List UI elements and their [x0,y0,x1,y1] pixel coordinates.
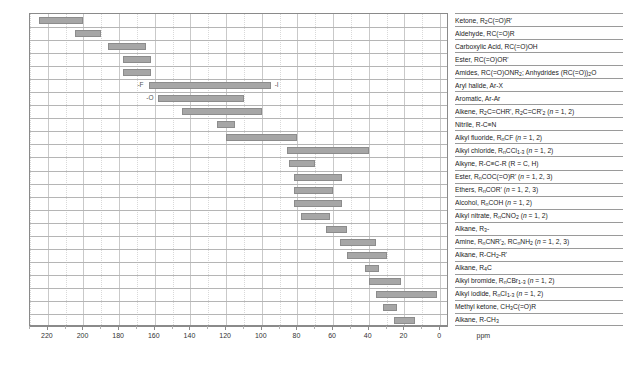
range-row [30,301,447,314]
range-row [30,14,447,27]
row-separator [30,92,447,93]
axis-tick-label: 200 [77,332,89,339]
shift-range-bar[interactable] [217,121,235,128]
range-row [30,171,447,184]
row-separator [30,210,447,211]
shift-range-bar[interactable] [182,108,262,115]
shift-range-bar[interactable] [123,69,152,76]
axis-tick-label: 20 [400,332,408,339]
range-row [30,275,447,288]
shift-range-bar[interactable] [294,187,333,194]
range-row [30,236,447,249]
x-axis [29,326,448,327]
row-separator [30,27,447,28]
nmr-shift-chart: -F-I-O Ketone, R2C(=O)R'Aldehyde, RC(=O)… [0,0,624,366]
functional-group-label: Alkyl fluoride, RnCF (n = 1, 2) [455,130,623,143]
label-column: Ketone, R2C(=O)R'Aldehyde, RC(=O)RCarbox… [455,13,623,326]
axis-tick-label: 160 [148,332,160,339]
axis-tick [82,326,83,330]
axis-unit-label: ppm [477,332,491,339]
shift-range-bar[interactable] [369,278,401,285]
functional-group-label: Alkyl nitrate, RnCNO2 (n = 1, 2) [455,209,623,222]
axis-tick-label: 100 [255,332,267,339]
shift-range-bar[interactable] [158,95,244,102]
shift-range-bar[interactable] [108,43,145,50]
axis-tick [189,326,190,330]
functional-group-label: Aryl halide, Ar-X [455,78,623,91]
range-row [30,66,447,79]
range-row [30,288,447,301]
axis-minor-tick [314,326,315,329]
row-separator [30,288,447,289]
range-row [30,105,447,118]
range-row [30,184,447,197]
functional-group-label: Alkane, R3- [455,222,623,235]
functional-group-label: Alkane, R-CH3 [455,313,623,326]
shift-range-bar[interactable] [226,134,297,141]
functional-group-label: Alcohol, RnCOH (n = 1, 2) [455,196,623,209]
shift-range-bar[interactable] [301,213,330,220]
shift-range-bar[interactable] [340,239,376,246]
range-row [30,223,447,236]
range-row [30,262,447,275]
axis-tick [47,326,48,330]
row-separator [30,223,447,224]
axis-tick-label: 140 [184,332,196,339]
shift-range-bar[interactable] [289,160,316,167]
axis-minor-tick [386,326,387,329]
row-separator [30,53,447,54]
shift-range-bar[interactable] [294,200,342,207]
row-separator [30,144,447,145]
plot-area: -F-I-O [29,13,448,326]
axis-tick-label: 220 [41,332,53,339]
axis-tick [225,326,226,330]
row-separator [30,301,447,302]
range-row [30,118,447,131]
bar-left-annotation: -F [137,80,143,90]
row-separator [30,236,447,237]
row-separator [30,105,447,106]
shift-range-bar[interactable] [394,317,415,324]
shift-range-bar[interactable] [287,147,369,154]
shift-range-bar[interactable] [123,56,152,63]
functional-group-label: Amine, RnCNR'2, RCnNH2 (n = 1, 2, 3) [455,235,623,248]
row-separator [30,66,447,67]
functional-group-label: Ketone, R2C(=O)R' [455,13,623,26]
axis-tick-label: 80 [293,332,301,339]
bar-left-annotation: -O [146,93,153,103]
shift-range-bar[interactable] [294,174,342,181]
shift-range-bar[interactable] [376,291,437,298]
range-row [30,27,447,40]
functional-group-label: Alkane, R4C [455,261,623,274]
axis-tick [118,326,119,330]
range-row: -F-I [30,79,447,92]
functional-group-label: Ester, RC(=O)OR' [455,52,623,65]
range-row [30,40,447,53]
axis-minor-tick [243,326,244,329]
axis-minor-tick [100,326,101,329]
range-row [30,144,447,157]
axis-tick [261,326,262,330]
shift-range-bar[interactable] [326,226,347,233]
axis-minor-tick [207,326,208,329]
row-separator [30,184,447,185]
range-row [30,197,447,210]
axis-tick [296,326,297,330]
functional-group-label: Alkane, R-CH2-R' [455,248,623,261]
functional-group-label: Alkyne, R-C≡C-R (R = C, H) [455,156,623,169]
shift-range-bar[interactable] [75,30,102,37]
row-separator [30,171,447,172]
shift-range-bar[interactable] [347,252,386,259]
shift-range-bar[interactable] [365,265,379,272]
functional-group-label: Alkyl bromide, RnCBr1-3 (n = 1, 2) [455,274,623,287]
row-separator [30,157,447,158]
row-separator [30,197,447,198]
shift-range-bar[interactable] [149,82,270,89]
row-separator [30,118,447,119]
functional-group-label: Aromatic, Ar-Ar [455,91,623,104]
functional-group-label: Methyl ketone, CH3C(=O)R [455,300,623,313]
row-separator [30,79,447,80]
range-row: -O [30,92,447,105]
shift-range-bar[interactable] [383,304,397,311]
shift-range-bar[interactable] [39,17,84,24]
